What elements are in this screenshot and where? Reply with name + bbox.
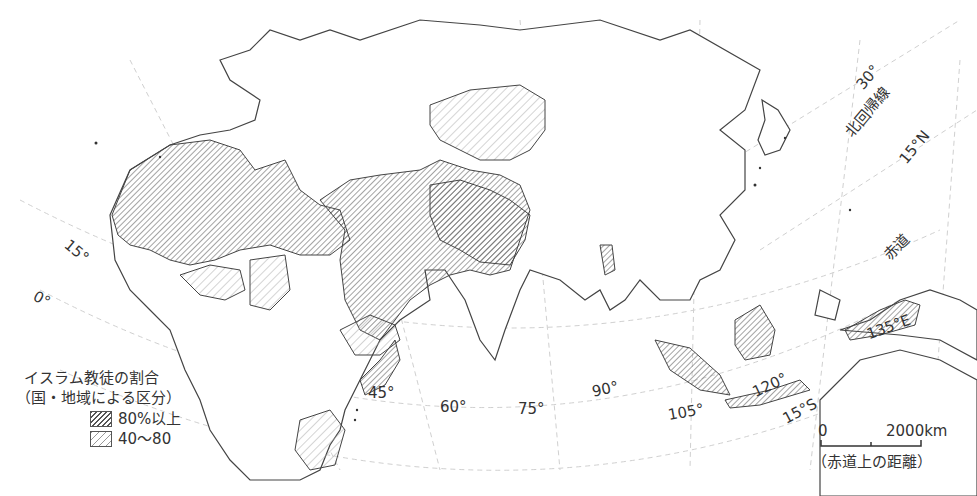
legend-item-80-plus: 80%以上 <box>90 409 181 429</box>
scale-line <box>820 440 930 448</box>
legend-item-40-80: 40〜80 <box>90 429 181 449</box>
scale-start: 0 <box>818 422 828 440</box>
scale-note: （赤道上の距離） <box>812 450 966 471</box>
legend: イスラム教徒の割合 （国・地域による区分） 80%以上 40〜80 <box>24 368 181 449</box>
lon-label-75: 75° <box>518 402 545 417</box>
light-hatch-swatch <box>90 431 112 447</box>
legend-label: 40〜80 <box>118 429 171 449</box>
scale-end: 2000km <box>886 422 947 440</box>
dense-hatch-swatch <box>90 411 112 427</box>
lon-label-60: 60° <box>440 400 467 415</box>
legend-label: 80%以上 <box>118 409 181 429</box>
scale-bar: 0 2000km （赤道上の距離） <box>816 422 966 471</box>
legend-title: イスラム教徒の割合 <box>24 368 181 388</box>
lon-label-45: 45° <box>368 386 395 401</box>
legend-subtitle: （国・地域による区分） <box>16 388 181 408</box>
